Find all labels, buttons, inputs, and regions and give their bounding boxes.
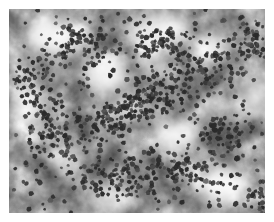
- micrograph-canvas: [9, 9, 265, 213]
- nucleus-blob: [116, 12, 120, 16]
- nucleus-blob: [261, 25, 264, 28]
- nucleus-blob: [248, 42, 254, 47]
- nucleus-blob: [110, 182, 113, 185]
- light-lacuna: [155, 121, 199, 153]
- nucleus-blob: [42, 148, 46, 152]
- micrograph-image: [9, 9, 265, 213]
- nucleus-blob: [168, 27, 172, 30]
- nucleus-blob: [114, 163, 119, 167]
- nucleus-blob: [161, 45, 165, 49]
- nucleus-blob: [98, 27, 101, 30]
- nucleus-blob: [134, 48, 138, 53]
- nucleus-blob: [135, 190, 138, 193]
- page-root: [0, 0, 274, 222]
